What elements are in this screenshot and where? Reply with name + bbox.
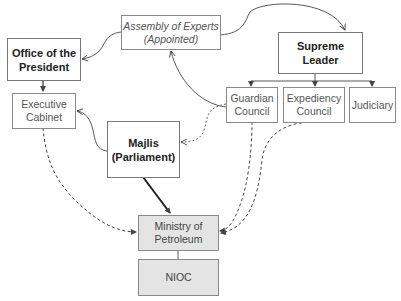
edge-majlis-to-ministry xyxy=(143,177,170,213)
node-label: Executive Cabinet xyxy=(21,98,67,124)
node-guardian-council: Guardian Council xyxy=(226,87,278,123)
edge-leader-to-councils xyxy=(251,73,372,81)
node-label: Guardian Council xyxy=(230,92,273,118)
node-label: Judiciary xyxy=(352,99,393,112)
node-office-of-president: Office of the President xyxy=(7,38,81,81)
edge-expediency-to-ministry xyxy=(221,122,313,233)
node-label: Assembly of Experts (Appointed) xyxy=(123,20,219,46)
edge-assembly-to-leader xyxy=(220,4,345,35)
node-judiciary: Judiciary xyxy=(349,87,396,123)
node-label: NIOC xyxy=(165,271,191,284)
node-nioc: NIOC xyxy=(138,259,219,296)
node-label: Expediency Council xyxy=(287,92,341,118)
edge-guardian-to-majlis xyxy=(181,104,226,142)
edge-majlis-to-cabinet xyxy=(77,111,107,151)
node-label: Office of the President xyxy=(12,46,76,74)
node-assembly-of-experts: Assembly of Experts (Appointed) xyxy=(121,15,221,50)
edge-guardian-to-assembly xyxy=(171,51,226,107)
node-label: Majlis (Parliament) xyxy=(112,136,176,164)
node-ministry-of-petroleum: Ministry of Petroleum xyxy=(138,215,219,251)
node-executive-cabinet: Executive Cabinet xyxy=(12,93,76,129)
node-label: Supreme Leader xyxy=(297,39,344,67)
node-expediency-council: Expediency Council xyxy=(283,87,345,123)
edge-assembly-to-president xyxy=(82,32,121,59)
node-majlis: Majlis (Parliament) xyxy=(107,121,180,178)
node-supreme-leader: Supreme Leader xyxy=(278,32,363,74)
node-label: Ministry of Petroleum xyxy=(155,220,203,246)
